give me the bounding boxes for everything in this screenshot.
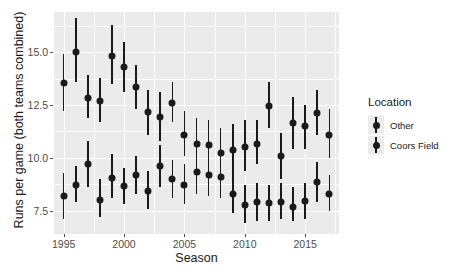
y-axis-tick-label: 7.5 <box>33 205 48 217</box>
data-point <box>205 142 212 149</box>
legend-title: Location <box>368 96 451 108</box>
grid-line-minor-vertical <box>275 12 276 234</box>
x-axis-label: Season <box>54 251 339 265</box>
data-point <box>241 202 248 209</box>
data-point <box>193 168 200 175</box>
data-point <box>265 200 272 207</box>
x-axis-tick-mark <box>64 234 65 237</box>
data-point <box>253 141 260 148</box>
x-axis-tick-label: 2010 <box>233 238 256 250</box>
grid-line-major-horizontal <box>54 105 339 106</box>
data-point <box>72 49 79 56</box>
y-axis-tick-mark <box>50 158 53 159</box>
grid-line-minor-horizontal <box>54 26 339 27</box>
data-point <box>181 182 188 189</box>
y-axis-tick-label: 15.0 <box>28 46 48 58</box>
data-point <box>145 109 152 116</box>
data-point <box>96 197 103 204</box>
data-point <box>72 182 79 189</box>
y-axis-tick-mark <box>50 52 53 53</box>
data-point <box>205 171 212 178</box>
data-point <box>133 84 140 91</box>
x-axis-tick-label: 2005 <box>173 238 196 250</box>
y-axis-tick-mark <box>50 211 53 212</box>
data-point <box>229 190 236 197</box>
runs-per-game-scatter-chart: Runs per game (both teams combined) Seas… <box>0 0 451 276</box>
data-point <box>181 131 188 138</box>
data-point <box>60 192 67 199</box>
x-axis-tick-label: 1995 <box>52 238 75 250</box>
data-point <box>326 131 333 138</box>
data-point <box>108 174 115 181</box>
legend-key-point-icon <box>368 116 384 134</box>
y-axis-label: Runs per game (both teams combined) <box>12 5 26 235</box>
data-point <box>169 99 176 106</box>
x-axis-tick-label: 2000 <box>112 238 135 250</box>
data-point <box>84 161 91 168</box>
legend-item-coors-field[interactable]: Coors Field <box>368 135 451 155</box>
data-point <box>302 123 309 130</box>
data-point <box>278 152 285 159</box>
grid-line-minor-horizontal <box>54 79 339 80</box>
y-axis-tick-label: 10.0 <box>28 152 48 164</box>
data-point <box>302 198 309 205</box>
data-point <box>60 79 67 86</box>
x-axis-tick-mark <box>184 234 185 237</box>
data-point <box>145 187 152 194</box>
data-point <box>157 163 164 170</box>
grid-line-major-horizontal <box>54 211 339 212</box>
legend-item-label: Coors Field <box>390 140 439 151</box>
x-axis-tick-mark <box>245 234 246 237</box>
data-point <box>290 203 297 210</box>
legend-item-other[interactable]: Other <box>368 115 451 135</box>
grid-line-minor-vertical <box>215 12 216 234</box>
grid-line-major-horizontal <box>54 52 339 53</box>
data-point <box>217 173 224 180</box>
grid-line-minor-vertical <box>335 12 336 234</box>
data-point <box>169 176 176 183</box>
y-axis-tick-mark <box>50 105 53 106</box>
data-point <box>84 94 91 101</box>
data-point <box>133 171 140 178</box>
x-axis-tick-label: 2015 <box>293 238 316 250</box>
x-axis-tick-mark <box>305 234 306 237</box>
data-point <box>157 113 164 120</box>
data-point <box>229 147 236 154</box>
data-point <box>121 63 128 70</box>
data-point <box>278 199 285 206</box>
data-point <box>326 190 333 197</box>
data-point <box>96 97 103 104</box>
data-point <box>290 120 297 127</box>
data-point <box>314 179 321 186</box>
legend-item-label: Other <box>390 120 414 131</box>
legend-key-point-icon <box>368 136 384 154</box>
data-point <box>253 199 260 206</box>
data-point <box>108 53 115 60</box>
legend: Location Other Coors Field <box>368 96 451 155</box>
x-axis-tick-mark <box>124 234 125 237</box>
grid-line-minor-vertical <box>94 12 95 234</box>
y-axis-tick-label: 12.5 <box>28 99 48 111</box>
data-point <box>121 183 128 190</box>
data-point <box>314 110 321 117</box>
data-point <box>265 103 272 110</box>
grid-line-minor-vertical <box>154 12 155 234</box>
data-point <box>241 144 248 151</box>
